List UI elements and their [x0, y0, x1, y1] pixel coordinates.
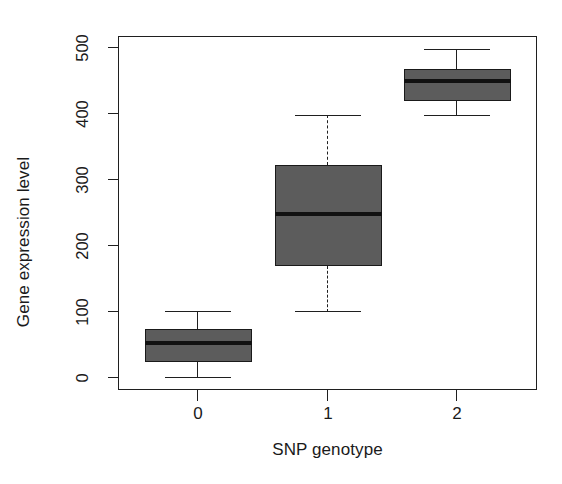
x-axis-tick-label: 1 — [308, 404, 348, 424]
y-axis-tick-label: 500 — [62, 38, 102, 58]
y-axis-tick-label-text: 400 — [73, 100, 92, 128]
y-axis-tick-label: 200 — [62, 236, 102, 256]
lower-whisker — [456, 101, 457, 116]
x-axis-tick — [197, 390, 198, 401]
upper-whisker-cap — [165, 311, 231, 312]
upper-whisker — [456, 49, 457, 69]
y-axis-tick-label-text: 300 — [73, 166, 92, 194]
x-axis-title-text: SNP genotype — [272, 440, 383, 459]
y-axis-tick-label-text: 0 — [73, 373, 92, 382]
y-axis-tick-label: 0 — [62, 368, 102, 388]
upper-whisker — [327, 115, 328, 165]
y-axis-tick-label-text: 200 — [73, 232, 92, 260]
y-axis-tick-label-text: 500 — [73, 34, 92, 62]
median-line — [275, 212, 382, 216]
lower-whisker — [197, 362, 198, 379]
y-axis-title: Gene expression level — [0, 0, 48, 484]
y-axis-tick — [108, 47, 118, 48]
x-axis-tick — [327, 390, 328, 401]
upper-whisker — [197, 312, 198, 329]
upper-whisker-cap — [424, 49, 490, 50]
y-axis-tick-label: 100 — [62, 302, 102, 322]
y-axis-tick — [108, 179, 118, 180]
x-axis-title: SNP genotype — [118, 440, 537, 460]
y-axis-tick-label: 300 — [62, 170, 102, 190]
lower-whisker-cap — [165, 377, 231, 378]
y-axis-tick-label: 400 — [62, 104, 102, 124]
lower-whisker-cap — [424, 115, 490, 116]
boxplot-figure: Gene expression level 010020030040050001… — [0, 0, 562, 484]
y-axis-title-text: Gene expression level — [14, 157, 34, 327]
x-axis-tick — [456, 390, 457, 401]
y-axis-tick — [108, 311, 118, 312]
median-line — [404, 79, 511, 83]
upper-whisker-cap — [295, 115, 361, 116]
y-axis-tick-label-text: 100 — [73, 298, 92, 326]
y-axis-tick — [108, 377, 118, 378]
lower-whisker — [327, 266, 328, 312]
x-axis-tick-label: 2 — [437, 404, 477, 424]
y-axis-tick — [108, 113, 118, 114]
box-iqr — [404, 69, 511, 101]
y-axis-tick — [108, 245, 118, 246]
x-axis-tick-label: 0 — [178, 404, 218, 424]
lower-whisker-cap — [295, 311, 361, 312]
median-line — [145, 341, 252, 345]
